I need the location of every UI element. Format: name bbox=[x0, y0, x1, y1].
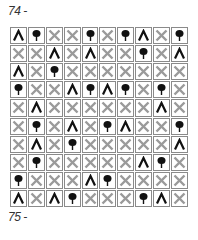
grid-cell[interactable] bbox=[135, 45, 152, 62]
grid-cell[interactable] bbox=[99, 27, 116, 44]
grid-cell[interactable] bbox=[28, 118, 45, 135]
grid-cell[interactable] bbox=[46, 99, 63, 116]
grid-cell[interactable] bbox=[171, 63, 188, 80]
grid-cell[interactable] bbox=[117, 172, 134, 189]
grid-cell[interactable] bbox=[64, 81, 81, 98]
grid-cell[interactable] bbox=[153, 27, 170, 44]
grid-cell[interactable] bbox=[46, 190, 63, 207]
grid-cell[interactable] bbox=[82, 136, 99, 153]
grid-cell[interactable] bbox=[10, 45, 27, 62]
grid-cell[interactable] bbox=[28, 81, 45, 98]
grid-cell[interactable] bbox=[10, 154, 27, 171]
grid-cell[interactable] bbox=[153, 172, 170, 189]
grid-cell[interactable] bbox=[28, 27, 45, 44]
grid-cell[interactable] bbox=[99, 154, 116, 171]
grid-cell[interactable] bbox=[117, 136, 134, 153]
grid-cell[interactable] bbox=[117, 63, 134, 80]
grid-cell[interactable] bbox=[153, 154, 170, 171]
grid-cell[interactable] bbox=[117, 81, 134, 98]
grid-cell[interactable] bbox=[46, 118, 63, 135]
grid-cell[interactable] bbox=[82, 190, 99, 207]
grid-cell[interactable] bbox=[10, 118, 27, 135]
grid-cell[interactable] bbox=[135, 81, 152, 98]
grid-cell[interactable] bbox=[28, 63, 45, 80]
grid-cell[interactable] bbox=[153, 99, 170, 116]
grid-cell[interactable] bbox=[28, 45, 45, 62]
grid-cell[interactable] bbox=[82, 172, 99, 189]
grid-cell[interactable] bbox=[46, 81, 63, 98]
grid-cell[interactable] bbox=[171, 136, 188, 153]
grid-cell[interactable] bbox=[153, 136, 170, 153]
grid-cell[interactable] bbox=[135, 99, 152, 116]
grid-cell[interactable] bbox=[135, 63, 152, 80]
grid-cell[interactable] bbox=[28, 190, 45, 207]
grid-cell[interactable] bbox=[64, 172, 81, 189]
grid-cell[interactable] bbox=[64, 190, 81, 207]
grid-cell[interactable] bbox=[171, 27, 188, 44]
grid-cell[interactable] bbox=[171, 190, 188, 207]
grid-cell[interactable] bbox=[135, 172, 152, 189]
grid-cell[interactable] bbox=[10, 172, 27, 189]
grid-cell[interactable] bbox=[10, 136, 27, 153]
grid-cell[interactable] bbox=[153, 63, 170, 80]
grid-cell[interactable] bbox=[99, 81, 116, 98]
grid-cell[interactable] bbox=[99, 136, 116, 153]
grid-cell[interactable] bbox=[117, 99, 134, 116]
grid-cell[interactable] bbox=[171, 81, 188, 98]
grid-cell[interactable] bbox=[10, 81, 27, 98]
grid-cell[interactable] bbox=[10, 27, 27, 44]
grid-cell[interactable] bbox=[46, 136, 63, 153]
grid-cell[interactable] bbox=[153, 118, 170, 135]
grid-cell[interactable] bbox=[117, 154, 134, 171]
grid-cell[interactable] bbox=[82, 118, 99, 135]
grid-cell[interactable] bbox=[82, 63, 99, 80]
grid-cell[interactable] bbox=[135, 154, 152, 171]
grid-cell[interactable] bbox=[153, 190, 170, 207]
grid-cell[interactable] bbox=[82, 27, 99, 44]
grid-cell[interactable] bbox=[82, 81, 99, 98]
grid-cell[interactable] bbox=[64, 118, 81, 135]
grid-cell[interactable] bbox=[64, 27, 81, 44]
grid-cell[interactable] bbox=[46, 63, 63, 80]
grid-cell[interactable] bbox=[99, 118, 116, 135]
grid-cell[interactable] bbox=[28, 172, 45, 189]
grid-cell[interactable] bbox=[135, 27, 152, 44]
grid-cell[interactable] bbox=[117, 27, 134, 44]
grid-cell[interactable] bbox=[46, 154, 63, 171]
grid-cell[interactable] bbox=[153, 45, 170, 62]
grid-cell[interactable] bbox=[171, 45, 188, 62]
grid-cell[interactable] bbox=[99, 99, 116, 116]
grid-cell[interactable] bbox=[99, 172, 116, 189]
grid-cell[interactable] bbox=[171, 118, 188, 135]
grid-cell[interactable] bbox=[82, 154, 99, 171]
grid-cell[interactable] bbox=[99, 45, 116, 62]
grid-cell[interactable] bbox=[46, 45, 63, 62]
grid-cell[interactable] bbox=[135, 190, 152, 207]
grid-cell[interactable] bbox=[117, 190, 134, 207]
grid-cell[interactable] bbox=[64, 136, 81, 153]
grid-cell[interactable] bbox=[10, 190, 27, 207]
grid-cell[interactable] bbox=[64, 63, 81, 80]
grid-cell[interactable] bbox=[171, 99, 188, 116]
grid-cell[interactable] bbox=[64, 154, 81, 171]
grid-cell[interactable] bbox=[82, 45, 99, 62]
grid-cell[interactable] bbox=[135, 118, 152, 135]
grid-cell[interactable] bbox=[82, 99, 99, 116]
grid-cell[interactable] bbox=[117, 118, 134, 135]
grid-cell[interactable] bbox=[46, 172, 63, 189]
grid-cell[interactable] bbox=[46, 27, 63, 44]
grid-cell[interactable] bbox=[171, 172, 188, 189]
grid-cell[interactable] bbox=[28, 136, 45, 153]
grid-cell[interactable] bbox=[99, 190, 116, 207]
grid-cell[interactable] bbox=[10, 63, 27, 80]
grid-cell[interactable] bbox=[10, 99, 27, 116]
grid-cell[interactable] bbox=[64, 99, 81, 116]
grid-cell[interactable] bbox=[153, 81, 170, 98]
grid-cell[interactable] bbox=[135, 136, 152, 153]
grid-cell[interactable] bbox=[28, 154, 45, 171]
grid-cell[interactable] bbox=[117, 45, 134, 62]
grid-cell[interactable] bbox=[171, 154, 188, 171]
grid-cell[interactable] bbox=[99, 63, 116, 80]
grid-cell[interactable] bbox=[28, 99, 45, 116]
grid-cell[interactable] bbox=[64, 45, 81, 62]
